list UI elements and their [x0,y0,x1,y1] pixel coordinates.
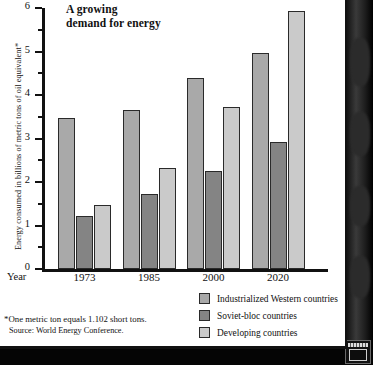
bar-2000-series-0 [187,78,204,269]
legend-label-0: Industrialized Western countries [217,294,338,304]
x-tick-label-2000: 2000 [203,271,225,283]
bar-1985-series-1 [141,194,158,269]
bar-group-1973 [58,8,116,269]
y-tick-label: 3 [25,131,30,143]
bar-group-2000 [187,8,245,269]
x-axis-labels: Year 1973198520002020 [0,271,347,287]
legend-item-0: Industrialized Western countries [199,290,347,307]
y-axis-label: Energy consumed in billions of metric to… [14,22,23,272]
y-tick-label: 6 [25,0,30,12]
y-tick-label: 4 [25,87,30,99]
y-tick-4: 4 [35,94,42,96]
y-axis-line [42,8,45,269]
bar-1985-series-0 [123,110,140,269]
y-tick-minor [38,29,42,31]
bar-1973-series-1 [76,216,93,269]
x-tick-label-1973: 1973 [74,271,96,283]
legend-item-2: Developing countries [199,324,347,341]
legend-swatch-2 [199,327,210,338]
footnote-metric-ton: *One metric ton equals 1.102 short tons. [4,313,194,325]
bar-1973-series-2 [94,205,111,269]
plot-area: 0123456 [42,8,328,269]
y-tick-label: 1 [25,218,30,230]
bar-2020-series-1 [270,142,287,269]
legend-item-1: Soviet-bloc countries [199,307,347,324]
legend-label-2: Developing countries [217,328,297,338]
y-tick-minor [38,116,42,118]
legend: Industrialized Western countriesSoviet-b… [199,290,347,341]
bar-1973-series-0 [58,118,75,269]
y-tick-minor [38,72,42,74]
bar-group-1985 [123,8,181,269]
bar-2020-series-2 [288,11,305,269]
bar-2000-series-1 [205,171,222,269]
page-bottom-shadow [0,349,373,365]
bar-2020-series-0 [252,53,269,269]
y-tick-0: 0 [35,268,42,270]
y-tick-minor [38,246,42,248]
legend-swatch-1 [199,310,210,321]
footnote-source: Source: World Energy Conference. [4,325,194,337]
y-tick-label: 2 [25,174,30,186]
y-tick-3: 3 [35,138,42,140]
x-tick-label-1985: 1985 [138,271,160,283]
y-tick-label: 5 [25,44,30,56]
legend-swatch-0 [199,293,210,304]
y-tick-5: 5 [35,51,42,53]
y-tick-6: 6 [35,7,42,9]
bar-2000-series-2 [223,107,240,269]
chart-figure: A growing demand for energy Energy consu… [0,0,347,349]
x-axis-title: Year [7,271,26,282]
scan-corner-marker [345,340,371,364]
scanned-page: A growing demand for energy Energy consu… [0,0,373,365]
footnotes: *One metric ton equals 1.102 short tons.… [4,313,194,337]
bar-group-2020 [252,8,310,269]
page-edge-shadow [347,0,373,349]
y-tick-1: 1 [35,225,42,227]
y-tick-2: 2 [35,181,42,183]
legend-label-1: Soviet-bloc countries [217,311,297,321]
y-tick-minor [38,159,42,161]
y-tick-minor [38,203,42,205]
bar-1985-series-2 [159,168,176,269]
x-tick-label-2020: 2020 [267,271,289,283]
